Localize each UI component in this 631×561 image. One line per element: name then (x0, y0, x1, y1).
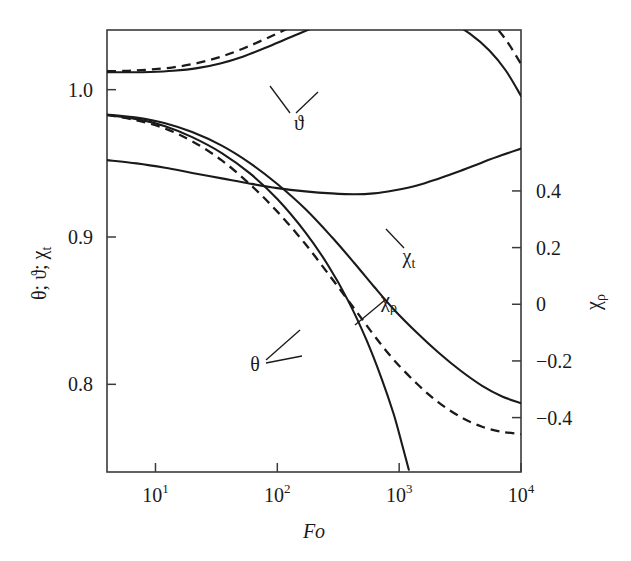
x-axis-title: Fo (302, 520, 325, 542)
right-tick-label: −0.2 (536, 350, 572, 372)
figure-container: 1.00.90.8 0.40.20−0.2−0.4 101102103104 ϑ… (0, 0, 631, 561)
curve-vartheta-dashed (107, 0, 521, 71)
right-axis-tick-labels: 0.40.20−0.2−0.4 (536, 180, 572, 429)
theta-callout-leader (266, 356, 302, 363)
left-tick-label: 1.0 (68, 79, 93, 101)
curve-annotations: ϑχtχρθ (250, 86, 415, 375)
chart-svg: 1.00.90.8 0.40.20−0.2−0.4 101102103104 ϑ… (0, 0, 631, 561)
left-axis-tick-labels: 1.00.90.8 (68, 79, 93, 396)
data-curves (107, 0, 521, 470)
curve-theta-solid (107, 114, 521, 403)
left-axis-ticks (107, 90, 116, 385)
theta-callout-leader (266, 330, 300, 360)
vartheta-callout-leader (296, 92, 318, 113)
theta-callout-label: θ (250, 353, 260, 375)
left-axis-title: θ; ϑ; χt (28, 247, 54, 300)
left-axis-title-text: θ; ϑ; χ (28, 250, 51, 300)
left-tick-label: 0.9 (68, 226, 93, 248)
chi-t-callout-leader (386, 229, 404, 248)
chi-t-callout-label: χt (402, 245, 416, 271)
right-axis-title-text: χ (582, 301, 605, 311)
x-tick-label: 103 (386, 481, 413, 506)
x-axis-ticks (155, 463, 521, 472)
right-tick-label: 0 (536, 293, 546, 315)
right-axis-title: χρ (582, 294, 608, 311)
right-axis-ticks (512, 191, 521, 418)
svg-text:χρ: χρ (582, 294, 608, 311)
left-axis-title-subscript: t (39, 247, 54, 251)
right-axis-title-subscript: ρ (593, 294, 608, 301)
curve-chi-t (107, 149, 521, 195)
svg-text:θ; ϑ; χt: θ; ϑ; χt (28, 247, 54, 300)
chi-rho-callout-label: χρ (380, 289, 397, 315)
x-tick-label: 104 (508, 481, 535, 506)
left-tick-label: 0.8 (68, 373, 93, 395)
right-tick-label: −0.4 (536, 407, 572, 429)
curve-theta-dashed (107, 115, 521, 434)
right-tick-label: 0.4 (536, 180, 561, 202)
x-tick-label: 102 (264, 481, 291, 506)
x-axis-tick-labels: 101102103104 (142, 481, 535, 506)
right-tick-label: 0.2 (536, 237, 561, 259)
vartheta-callout-leader (270, 86, 290, 113)
curve-vartheta-solid (107, 9, 521, 96)
vartheta-callout-label: ϑ (294, 112, 304, 134)
x-tick-label: 101 (142, 481, 169, 506)
